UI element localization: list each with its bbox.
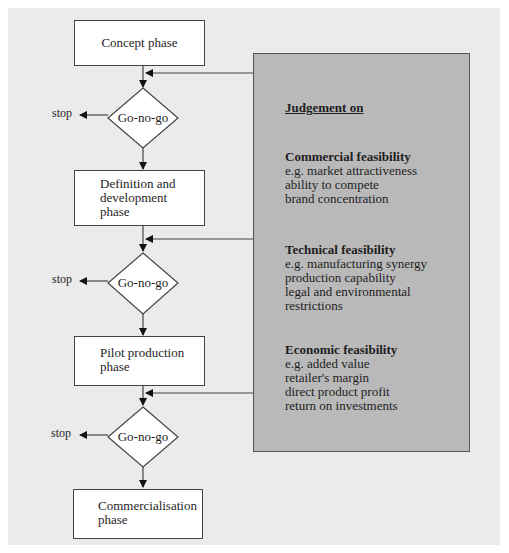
- phase-label: Definition and: [100, 177, 175, 191]
- phase-label: phase: [98, 513, 197, 527]
- stop-label: stop: [52, 106, 72, 121]
- flow-connectors: [0, 0, 509, 553]
- stop-label: stop: [51, 426, 71, 441]
- commercialisation-phase-box: Commercialisation phase: [73, 489, 203, 539]
- phase-label: development: [100, 191, 175, 205]
- phase-label: Pilot production: [100, 346, 184, 360]
- phase-label: phase: [100, 205, 175, 219]
- decision-label: Go-no-go: [108, 275, 178, 291]
- definition-phase-box: Definition and development phase: [74, 170, 205, 226]
- stop-label: stop: [52, 272, 72, 287]
- pilot-production-phase-box: Pilot production phase: [74, 336, 205, 386]
- phase-label: Commercialisation: [98, 499, 197, 513]
- decision-label: Go-no-go: [108, 110, 178, 126]
- phase-label: Concept phase: [101, 36, 177, 50]
- concept-phase-box: Concept phase: [74, 20, 205, 66]
- decision-label: Go-no-go: [108, 429, 178, 445]
- phase-label: phase: [100, 360, 184, 374]
